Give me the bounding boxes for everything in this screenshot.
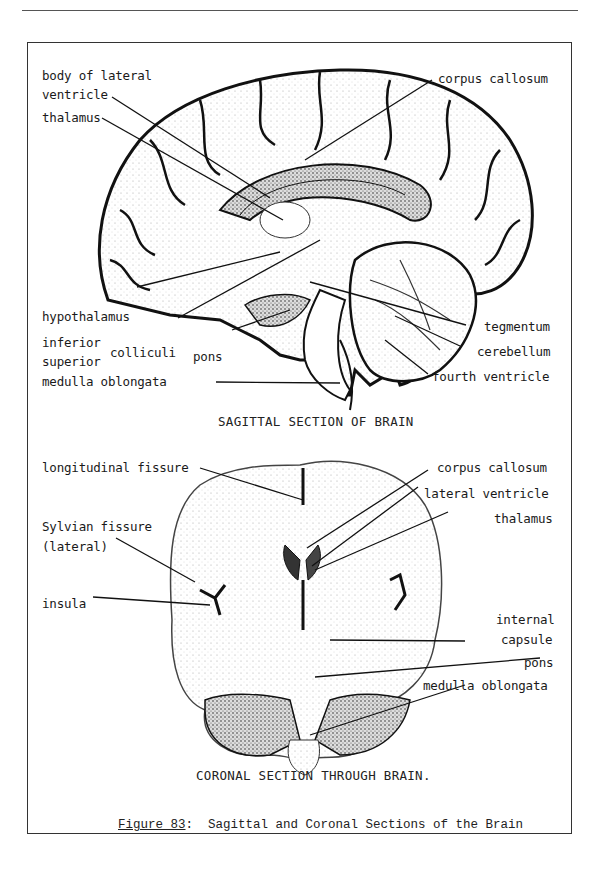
- label-body-of-lateral-ventricle-line1: body of lateral: [42, 69, 152, 83]
- label-internal-capsule-line1: internal: [496, 613, 555, 627]
- label-insula: insula: [42, 597, 86, 611]
- label-hypothalamus: hypothalamus: [42, 310, 130, 324]
- figure-number: Figure 83: [118, 818, 186, 832]
- label-medulla-oblongata-sagittal: medulla oblongata: [42, 375, 167, 389]
- label-fourth-ventricle: fourth ventricle: [432, 370, 549, 384]
- label-corpus-callosum-coronal: corpus callosum: [437, 461, 547, 475]
- figure-caption: Figure 83: Sagittal and Coronal Sections…: [118, 818, 523, 832]
- brain-illustration: [0, 0, 598, 877]
- label-pons-coronal: pons: [524, 656, 553, 670]
- label-body-of-lateral-ventricle-line2: ventricle: [42, 88, 108, 102]
- label-sylvian-fissure-line2: (lateral): [42, 540, 108, 554]
- sagittal-section-title: SAGITTAL SECTION OF BRAIN: [218, 414, 414, 429]
- label-superior: superior: [42, 355, 101, 369]
- coronal-brain-drawing: [170, 461, 441, 775]
- figure-separator: :: [186, 818, 194, 832]
- label-cerebellum: cerebellum: [477, 345, 550, 359]
- label-internal-capsule-line2: capsule: [501, 633, 552, 647]
- label-medulla-oblongata-coronal: medulla oblongata: [423, 679, 548, 693]
- label-lateral-ventricle: lateral ventricle: [424, 487, 549, 501]
- label-thalamus-sagittal: thalamus: [42, 111, 101, 125]
- label-sylvian-fissure-line1: Sylvian fissure: [42, 520, 152, 534]
- label-longitudinal-fissure: longitudinal fissure: [42, 461, 189, 475]
- figure-caption-text: Sagittal and Coronal Sections of the Bra…: [208, 818, 523, 832]
- label-pons-sagittal: pons: [193, 350, 222, 364]
- label-corpus-callosum-sagittal: corpus callosum: [438, 72, 548, 86]
- label-thalamus-coronal: thalamus: [494, 512, 553, 526]
- label-tegmentum: tegmentum: [484, 320, 550, 334]
- label-inferior: inferior: [42, 336, 101, 350]
- label-colliculi: colliculi: [110, 346, 176, 360]
- coronal-section-title: CORONAL SECTION THROUGH BRAIN.: [196, 768, 431, 783]
